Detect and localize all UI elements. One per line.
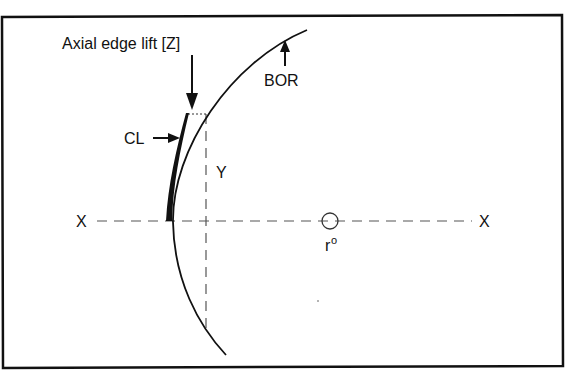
contact-lens-shape: [166, 113, 189, 221]
arrow-down-icon: [186, 93, 198, 110]
edge-lift-label: Axial edge lift [Z]: [62, 35, 180, 52]
cl-label: CL: [124, 130, 145, 147]
arrow-right-icon: [168, 133, 180, 143]
x-left-label: X: [76, 213, 87, 230]
bor-label: BOR: [264, 72, 299, 89]
diagram-frame: [2, 15, 563, 368]
radius-superscript: o: [331, 234, 337, 246]
x-right-label: X: [479, 213, 490, 230]
speck: [317, 300, 319, 302]
edge-lift-diagram: Axial edge lift [Z] BOR CL Y X X r o: [0, 0, 572, 373]
arrow-up-icon: [280, 40, 290, 52]
y-label: Y: [216, 164, 227, 181]
